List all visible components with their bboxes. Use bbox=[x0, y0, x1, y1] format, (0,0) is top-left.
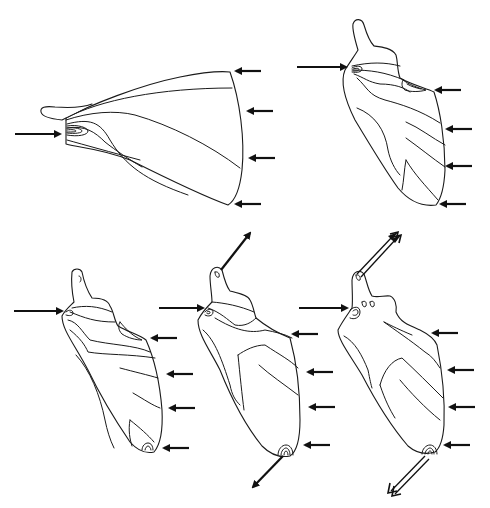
figure-1 bbox=[41, 72, 243, 205]
figure-2 bbox=[343, 20, 445, 206]
diagram-svg bbox=[0, 0, 490, 508]
figure-3 bbox=[62, 269, 162, 453]
arrow-up-right-icon bbox=[221, 233, 250, 270]
figure-3-outline bbox=[62, 269, 162, 453]
double-arrow-down-left-icon bbox=[388, 456, 429, 496]
arrow-down-left-icon bbox=[253, 456, 283, 487]
figure-5-outline bbox=[338, 271, 444, 453]
double-arrow-up-right-icon bbox=[357, 232, 401, 277]
diagram-canvas bbox=[0, 0, 490, 508]
figure-2-outline bbox=[343, 20, 445, 206]
figure-4-outline bbox=[198, 267, 300, 456]
figure-5 bbox=[338, 271, 444, 454]
figure-4 bbox=[198, 267, 300, 456]
figure-1-outline bbox=[66, 72, 243, 205]
